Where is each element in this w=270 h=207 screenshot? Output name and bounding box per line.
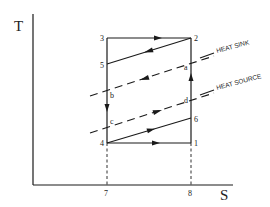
heat-source-line (90, 93, 214, 133)
point-4-label: 4 (100, 139, 104, 148)
axes (33, 14, 233, 185)
arrow-heat-source-icon (153, 110, 163, 115)
heat-sink-label: HEAT SINK (215, 38, 250, 54)
ts-diagram: T S 7 8 HEAT SINK HEAT SOURCE 3 2 5 b a (0, 0, 270, 207)
point-2-label: 2 (194, 34, 198, 43)
arrow-2-5-icon (144, 48, 154, 53)
arrow-4-6-icon (147, 128, 156, 133)
x-tick-7: 7 (104, 189, 108, 198)
point-5-label: 5 (100, 61, 104, 70)
y-axis-label: T (14, 18, 23, 34)
arrow-d-a-icon (189, 73, 194, 81)
cycle (105, 36, 194, 146)
arrow-heat-sink-icon (140, 75, 150, 80)
point-d-label: d (184, 96, 188, 105)
heat-sink-leader (200, 53, 214, 58)
x-axis-label: S (220, 187, 228, 203)
point-c-label: c (110, 117, 114, 126)
x-tick-8: 8 (188, 189, 192, 198)
point-1-label: 1 (194, 139, 198, 148)
point-b-label: b (110, 91, 114, 100)
heat-source-leader (200, 90, 214, 95)
heat-sink-line (90, 56, 214, 96)
arrow-b-c-icon (105, 104, 110, 112)
point-a-label: a (184, 63, 188, 72)
arrow-2-3-icon (154, 36, 162, 41)
arrow-4-1-icon (152, 141, 160, 146)
heat-source-label: HEAT SOURCE (215, 72, 262, 91)
point-6-label: 6 (194, 115, 198, 124)
point-3-label: 3 (100, 34, 104, 43)
